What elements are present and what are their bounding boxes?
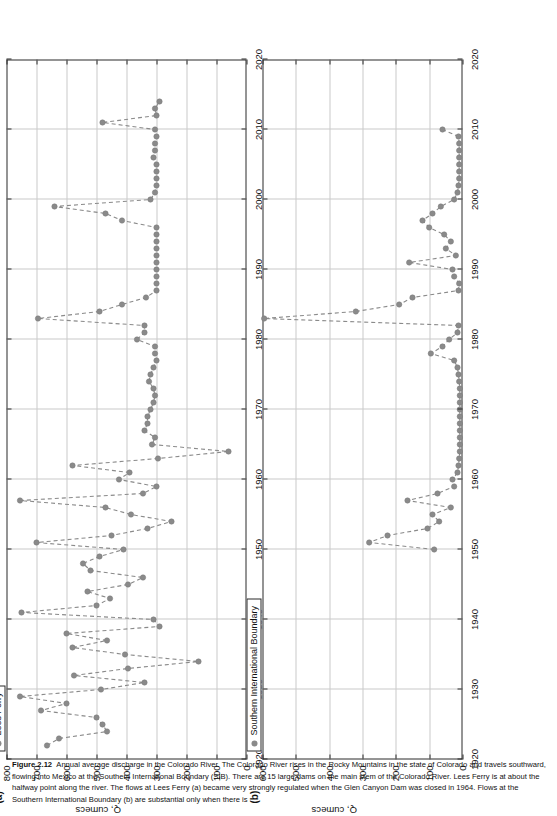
- x-axis-tick: [241, 688, 246, 689]
- y-axis-tick: [295, 59, 296, 64]
- x-axis-tick: [241, 548, 246, 549]
- x-axis-tick: [6, 408, 11, 409]
- x-axis-tick-label: 2020: [252, 48, 263, 69]
- x-axis-tick: [457, 338, 462, 339]
- x-axis-tick-label: 1950: [468, 538, 479, 559]
- x-axis-tick: [241, 268, 246, 269]
- legend-marker-icon: [0, 740, 1, 746]
- x-axis-tick-label: 1970: [252, 398, 263, 419]
- x-axis-tick-label: 2010: [252, 118, 263, 139]
- x-axis-tick: [241, 338, 246, 339]
- x-axis-tick: [6, 128, 11, 129]
- y-axis-tick: [295, 754, 296, 759]
- x-axis-tick: [262, 198, 267, 199]
- x-axis-tick: [6, 548, 11, 549]
- y-axis-tick: [66, 59, 67, 64]
- x-axis-tick: [6, 338, 11, 339]
- y-axis-tick: [96, 59, 97, 64]
- axis-ticks-b: 1920193019401950196019701980199020002010…: [262, 59, 462, 759]
- y-axis-tick: [186, 59, 187, 64]
- y-axis-tick: [329, 754, 330, 759]
- x-axis-tick-label: 2000: [468, 188, 479, 209]
- y-axis-tick: [329, 59, 330, 64]
- x-axis-tick: [6, 478, 11, 479]
- x-axis-tick: [457, 198, 462, 199]
- x-axis-tick-label: 1980: [468, 328, 479, 349]
- x-axis-tick-label: 1950: [252, 538, 263, 559]
- x-axis-tick: [262, 688, 267, 689]
- x-axis-tick-label: 1960: [252, 468, 263, 489]
- x-axis-tick: [262, 478, 267, 479]
- x-axis-tick: [241, 58, 246, 59]
- x-axis-tick-label: 2010: [468, 118, 479, 139]
- y-axis-tick: [262, 754, 263, 759]
- x-axis-tick-label: 1960: [468, 468, 479, 489]
- y-axis-tick: [216, 59, 217, 64]
- x-axis-tick: [6, 618, 11, 619]
- figure-caption-text: Annual average discharge in the Colorado…: [12, 760, 546, 803]
- y-axis-title-a: Q, cumecs: [75, 805, 120, 816]
- x-axis-tick: [241, 618, 246, 619]
- x-axis-tick: [262, 338, 267, 339]
- x-axis-tick: [6, 688, 11, 689]
- x-axis-tick-label: 1990: [252, 258, 263, 279]
- legend-label-lees-ferry: Lees Ferry: [0, 692, 2, 735]
- x-axis-tick: [262, 408, 267, 409]
- y-axis-tick: [216, 754, 217, 759]
- x-axis-tick-label: 1980: [252, 328, 263, 349]
- y-axis-tick: [262, 59, 263, 64]
- y-axis-tick: [36, 59, 37, 64]
- x-axis-tick-label: 1940: [468, 608, 479, 629]
- y-axis-tick: [156, 59, 157, 64]
- x-axis-tick: [262, 618, 267, 619]
- y-axis-tick: [246, 59, 247, 64]
- y-axis-tick: [156, 754, 157, 759]
- x-axis-tick: [262, 548, 267, 549]
- x-axis-tick: [262, 128, 267, 129]
- y-axis-tick: [186, 754, 187, 759]
- panel-tag-a: (a): [0, 791, 3, 803]
- y-axis-tick: [126, 754, 127, 759]
- y-axis-tick: [395, 754, 396, 759]
- x-axis-tick: [457, 548, 462, 549]
- chart-panel-a: 1920193019401950196019701980199020002010…: [6, 59, 246, 759]
- y-axis-tick: [6, 59, 7, 64]
- x-axis-tick-label: 2000: [252, 188, 263, 209]
- y-axis-tick: [6, 754, 7, 759]
- y-axis-tick: [36, 754, 37, 759]
- legend-a[interactable]: Lees Ferry: [0, 685, 5, 751]
- x-axis-tick: [241, 478, 246, 479]
- y-axis-tick-label: 800: [1, 765, 12, 781]
- y-axis-tick: [462, 59, 463, 64]
- x-axis-tick-label: 1990: [468, 258, 479, 279]
- x-axis-tick-label: 2020: [468, 48, 479, 69]
- y-axis-tick: [429, 754, 430, 759]
- legend-label-sib: Southern International Boundary: [249, 605, 258, 735]
- y-axis-tick: [246, 754, 247, 759]
- x-axis-tick-label: 1970: [468, 398, 479, 419]
- x-axis-tick-label: 1930: [468, 678, 479, 699]
- y-axis-tick: [429, 59, 430, 64]
- x-axis-tick: [457, 268, 462, 269]
- x-axis-tick: [457, 58, 462, 59]
- legend-b[interactable]: Southern International Boundary: [246, 598, 261, 751]
- x-axis-tick: [457, 408, 462, 409]
- x-axis-tick: [241, 128, 246, 129]
- figure-caption: Figure 2.12 Annual average discharge in …: [12, 759, 547, 805]
- y-axis-title-b: Q, cumecs: [311, 805, 356, 816]
- x-axis-tick: [457, 688, 462, 689]
- y-axis-tick: [462, 754, 463, 759]
- y-axis-tick: [126, 59, 127, 64]
- x-axis-tick: [241, 198, 246, 199]
- figure-number: Figure 2.12: [12, 760, 52, 769]
- chart-panel-b: 1920193019401950196019701980199020002010…: [262, 59, 462, 759]
- x-axis-tick: [457, 478, 462, 479]
- y-axis-tick: [362, 59, 363, 64]
- y-axis-tick: [96, 754, 97, 759]
- axis-ticks-a: 1920193019401950196019701980199020002010…: [6, 59, 246, 759]
- legend-marker-icon: [251, 740, 257, 746]
- x-axis-tick: [262, 268, 267, 269]
